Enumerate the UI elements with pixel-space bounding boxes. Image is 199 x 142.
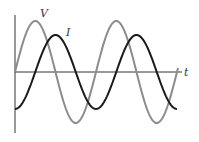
time-axis-label: t: [184, 66, 189, 79]
current-label: I: [65, 26, 71, 39]
phase-diagram: V I t: [0, 0, 199, 142]
voltage-label: V: [40, 7, 49, 20]
